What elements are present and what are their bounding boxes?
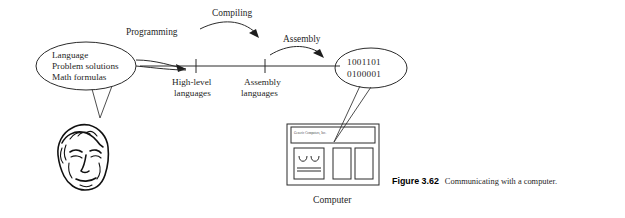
machine-ellipse-line-1: 1001101: [347, 57, 381, 67]
eyebrow-left: [70, 150, 82, 152]
axis-label-high-level-line1: High-level: [172, 77, 212, 87]
human-ellipse-line-3: Math formulas: [52, 72, 107, 82]
figure-caption-label: Figure 3.62: [392, 176, 439, 186]
eye-right: [91, 156, 101, 158]
computer-brand-label: Generic Computers, Inc.: [294, 131, 326, 136]
computer-brand-strip: [291, 127, 375, 143]
arrow-label-programming: Programming: [126, 27, 178, 37]
axis-label-high-level-line2: languages: [174, 88, 211, 98]
computer-illustration: Generic Computers, Inc.: [287, 124, 379, 185]
computer-label: Computer: [313, 194, 352, 205]
chin-crease: [80, 185, 92, 187]
figure-caption-text: Communicating with a computer.: [445, 177, 557, 186]
figure-container: Language Problem solutions Math formulas…: [0, 0, 625, 218]
machine-ellipse-tail: [334, 86, 371, 142]
computer-screen: [294, 148, 324, 179]
axis-label-assembly-line2: languages: [241, 88, 278, 98]
cheek-line-left: [69, 163, 72, 178]
screen-eye-left: [299, 156, 307, 161]
sideburn: [65, 145, 67, 160]
arrow-label-compiling: Compiling: [212, 8, 252, 18]
ear-left: [61, 148, 63, 163]
human-ellipse-tail: [92, 86, 112, 118]
assembly-arrow-path: [270, 46, 320, 55]
computer-drive-bay-right: [355, 148, 373, 179]
arrow-label-assembly: Assembly: [283, 34, 321, 44]
cheek-line-right: [97, 163, 100, 179]
person-head-illustration: [58, 125, 109, 190]
machine-code-ellipse: [335, 48, 407, 88]
computer-drive-bay-left: [333, 148, 351, 179]
figure-caption: Figure 3.62Communicating with a computer…: [392, 176, 620, 188]
eye-left: [71, 156, 82, 158]
compiling-arrow-path: [200, 22, 256, 33]
machine-ellipse-line-2: 0100001: [347, 69, 381, 79]
mouth: [76, 178, 96, 181]
programming-arrow-head: [176, 64, 186, 72]
screen-eye-right: [311, 156, 319, 161]
human-ellipse-line-2: Problem solutions: [52, 61, 119, 71]
hairline: [62, 132, 103, 147]
human-ellipse-line-1: Language: [52, 50, 88, 60]
eyebrow-right: [90, 150, 101, 153]
axis-label-assembly-line1: Assembly: [244, 77, 281, 87]
compiling-arrow-head: [249, 29, 259, 38]
